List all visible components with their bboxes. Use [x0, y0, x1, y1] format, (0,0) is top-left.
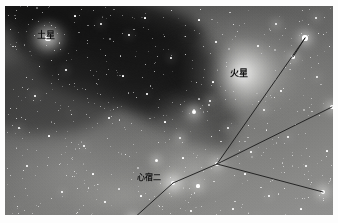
film-grain-overlay-secondary	[5, 6, 333, 215]
screenshot-root: 土星 火星 心宿二	[0, 0, 338, 223]
astrophoto-image: 土星 火星 心宿二	[5, 6, 333, 215]
